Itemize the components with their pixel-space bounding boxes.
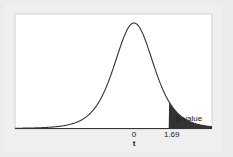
plot-area <box>15 14 212 129</box>
x-axis-label: t <box>133 139 136 148</box>
tick-label-critical: 1.69 <box>164 130 180 139</box>
tick-label-zero: 0 <box>132 130 137 139</box>
t-distribution-chart: 0 1.69 t p-value <box>0 0 233 157</box>
pvalue-annotation: p-value <box>176 114 203 123</box>
